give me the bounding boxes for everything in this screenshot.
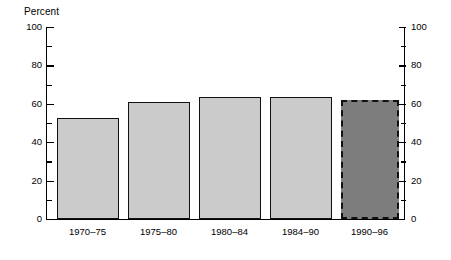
- right-tick-10: [401, 200, 406, 201]
- bar-1980-84: [199, 97, 261, 219]
- x-axis-label-1980-84: 1980–84: [199, 226, 261, 237]
- right-tick-90: [401, 46, 406, 47]
- right-axis-label-0: 0: [411, 214, 416, 224]
- bar-1984-90: [270, 97, 332, 219]
- left-axis-label-100: 100: [0, 22, 42, 32]
- x-axis-baseline: [46, 219, 405, 220]
- right-tick-40: [399, 142, 406, 143]
- x-axis-label-1990-96: 1990–96: [340, 226, 400, 237]
- left-axis-label-60: 60: [0, 99, 42, 109]
- left-tick-90: [47, 46, 52, 47]
- left-tick-10: [47, 200, 52, 201]
- bar-1970-75: [57, 118, 119, 219]
- right-axis-label-40: 40: [411, 137, 422, 147]
- right-axis-label-100: 100: [411, 22, 427, 32]
- x-axis-label-1970-75: 1970–75: [57, 226, 119, 237]
- right-tick-50: [401, 123, 406, 124]
- left-tick-30: [47, 161, 52, 162]
- left-tick-60: [47, 104, 54, 105]
- bar-chart: Percent 100 80 60 40 20: [0, 0, 451, 260]
- left-axis-label-20: 20: [0, 176, 42, 186]
- left-axis-label-40: 40: [0, 137, 42, 147]
- right-axis-label-20: 20: [411, 176, 422, 186]
- left-tick-100: [47, 27, 54, 28]
- right-axis-label-60: 60: [411, 99, 422, 109]
- bar-1990-96: [341, 100, 399, 219]
- x-axis-label-1984-90: 1984–90: [270, 226, 332, 237]
- left-tick-70: [47, 85, 52, 86]
- plot-area: 100 80 60 40 20 0 100 80 60 40 20 0 1970…: [0, 0, 451, 260]
- right-axis-label-80: 80: [411, 60, 422, 70]
- bar-1975-80: [128, 102, 190, 219]
- right-tick-60: [399, 104, 406, 105]
- left-tick-80: [47, 65, 54, 66]
- right-tick-70: [401, 85, 406, 86]
- left-tick-40: [47, 142, 54, 143]
- left-axis-label-80: 80: [0, 60, 42, 70]
- right-tick-80: [399, 65, 406, 66]
- right-tick-100: [399, 27, 406, 28]
- left-tick-20: [47, 181, 54, 182]
- right-tick-30: [401, 161, 406, 162]
- x-axis-label-1975-80: 1975–80: [128, 226, 190, 237]
- left-tick-50: [47, 123, 52, 124]
- left-axis-label-0: 0: [0, 214, 42, 224]
- right-tick-20: [399, 181, 406, 182]
